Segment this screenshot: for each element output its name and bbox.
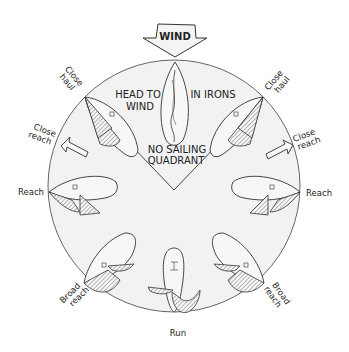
in-irons-label: IN IRONS xyxy=(190,89,235,100)
reach-left-label: Reach xyxy=(18,187,44,197)
points-of-sail-diagram: WIND HEAD TO WIND IN IRONS NO SAILING QU… xyxy=(0,0,349,352)
head-to-wind-line2: WIND xyxy=(126,101,154,112)
no-sailing-line2: QUADRANT xyxy=(148,155,206,166)
wind-label: WIND xyxy=(159,31,190,42)
run-label: Run xyxy=(170,328,186,338)
wind-arrow: WIND xyxy=(143,24,207,57)
reach-right-label: Reach xyxy=(306,188,332,198)
no-sailing-line1: NO SAILING xyxy=(148,144,207,155)
head-to-wind-line1: HEAD TO xyxy=(115,89,161,100)
